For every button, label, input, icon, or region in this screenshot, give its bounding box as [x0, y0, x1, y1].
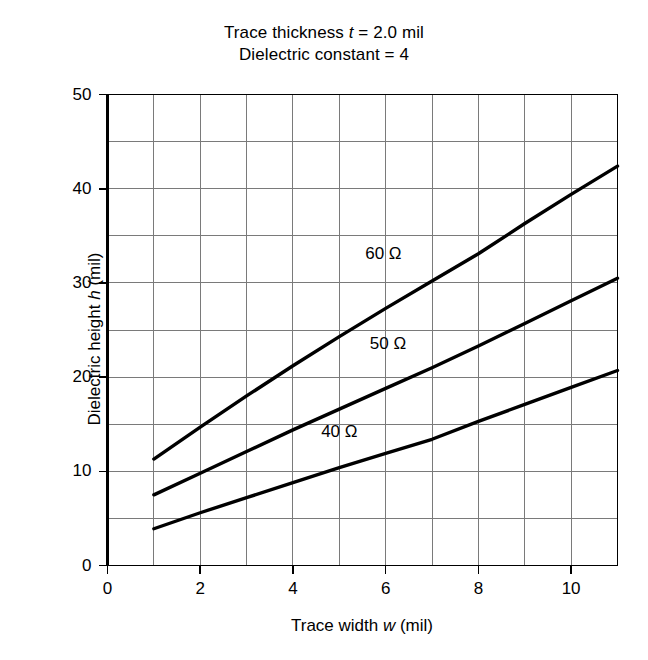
y-axis-title-pre: Dielectric height	[85, 300, 104, 426]
x-tick-label: 0	[103, 579, 112, 599]
x-tick-label: 8	[474, 579, 483, 599]
x-tick-label: 2	[195, 579, 204, 599]
y-axis-title-italic: h	[85, 290, 104, 299]
x-tick-label: 4	[288, 579, 297, 599]
x-tick-label: 10	[562, 579, 581, 599]
x-tick-label: 6	[381, 579, 390, 599]
x-axis-ticks	[108, 566, 572, 574]
series-label-40-ω: 40 Ω	[321, 422, 357, 442]
series-label-60-ω: 60 Ω	[365, 244, 401, 264]
y-axis-title: Dielectric height h (mil)	[85, 99, 105, 579]
y-axis-title-post: (mil)	[85, 253, 104, 291]
x-axis-title: Trace width w (mil)	[107, 616, 617, 636]
x-axis-title-italic: w	[383, 616, 395, 635]
series-label-50-ω: 50 Ω	[370, 334, 406, 354]
x-axis-title-pre: Trace width	[291, 616, 383, 635]
x-axis-title-post: (mil)	[395, 616, 433, 635]
chart-figure: Trace thickness t = 2.0 mil Dielectric c…	[0, 0, 648, 660]
